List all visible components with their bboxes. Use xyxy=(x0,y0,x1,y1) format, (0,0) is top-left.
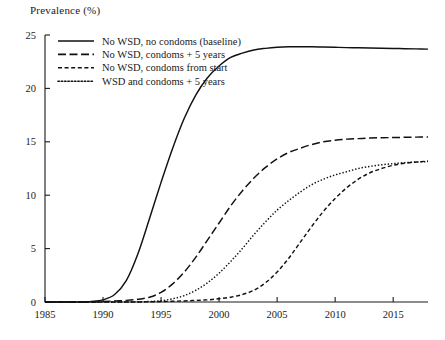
legend-label: No WSD, condoms + 5 years xyxy=(102,49,225,60)
y-tick-labels: 0510152025 xyxy=(26,30,37,308)
x-tick-label: 1995 xyxy=(151,309,172,320)
series-line xyxy=(45,161,428,302)
y-tick-label: 0 xyxy=(31,297,36,308)
x-tick-label: 2005 xyxy=(267,309,288,320)
y-tick-label: 5 xyxy=(31,243,36,254)
y-tick-marks xyxy=(45,35,50,302)
series-line xyxy=(45,137,428,302)
x-tick-label: 1985 xyxy=(35,309,56,320)
legend-label: No WSD, condoms from start xyxy=(102,62,228,73)
y-tick-label: 10 xyxy=(26,190,37,201)
x-tick-label: 2015 xyxy=(383,309,404,320)
x-tick-labels: 1985199019952000200520102015 xyxy=(35,309,404,320)
y-tick-label: 25 xyxy=(26,30,37,41)
legend: No WSD, no condoms (baseline)No WSD, con… xyxy=(58,36,241,87)
x-tick-label: 2010 xyxy=(325,309,346,320)
chart-plot-area: 0510152025 1985199019952000200520102015 … xyxy=(0,0,445,340)
series-line xyxy=(45,162,428,302)
x-tick-label: 2000 xyxy=(209,309,230,320)
legend-label: No WSD, no condoms (baseline) xyxy=(102,36,241,48)
y-tick-label: 15 xyxy=(26,136,37,147)
x-tick-label: 1990 xyxy=(93,309,114,320)
chart-figure: Prevalence (%) 0510152025 19851990199520… xyxy=(0,0,445,340)
y-tick-label: 20 xyxy=(26,83,37,94)
legend-label: WSD and condoms + 5 years xyxy=(102,76,225,87)
